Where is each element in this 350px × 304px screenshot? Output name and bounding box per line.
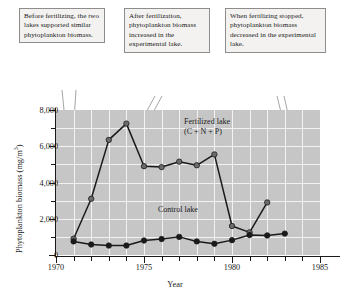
data-point-control-lake	[282, 231, 287, 236]
series-line-fertilized-lake	[74, 124, 268, 239]
data-point-control-lake	[247, 232, 252, 237]
data-point-control-lake	[194, 239, 199, 244]
data-point-control-lake	[177, 234, 182, 239]
data-point-fertilized-lake	[265, 200, 270, 205]
data-point-fertilized-lake	[194, 163, 199, 168]
y-axis-title-tail: )	[15, 144, 24, 147]
data-point-control-lake	[124, 243, 129, 248]
y-axis-title: Phytoplankton biomass (mg/m3)	[13, 144, 24, 253]
data-point-control-lake	[265, 233, 270, 238]
data-point-control-lake	[89, 242, 94, 247]
data-point-control-lake	[106, 243, 111, 248]
data-point-control-lake	[212, 241, 217, 246]
data-point-fertilized-lake	[106, 137, 111, 142]
y-axis-title-text: Phytoplankton biomass (mg/m	[15, 150, 24, 253]
series-label-fertilized-line2: (C + N + P)	[184, 127, 230, 137]
data-series-layer	[0, 0, 350, 304]
x-axis-title: Year	[0, 280, 350, 289]
data-point-fertilized-lake	[89, 196, 94, 201]
data-point-fertilized-lake	[229, 223, 234, 228]
data-point-control-lake	[141, 238, 146, 243]
data-point-fertilized-lake	[124, 121, 129, 126]
series-label-control-lake: Control lake	[158, 205, 198, 215]
series-label-fertilized-lake: Fertilized lake (C + N + P)	[184, 117, 230, 136]
data-point-control-lake	[229, 237, 234, 242]
data-point-control-lake	[159, 236, 164, 241]
data-point-fertilized-lake	[141, 163, 146, 168]
figure-container: Before fertilizing, the two lakes suppor…	[0, 0, 350, 304]
data-point-fertilized-lake	[159, 164, 164, 169]
y-axis-title-superscript: 3	[13, 147, 19, 150]
series-label-fertilized-line1: Fertilized lake	[184, 117, 230, 127]
data-point-fertilized-lake	[212, 152, 217, 157]
data-point-fertilized-lake	[177, 159, 182, 164]
data-point-control-lake	[71, 239, 76, 244]
